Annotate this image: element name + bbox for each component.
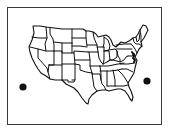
- us-states-map: [0, 0, 172, 136]
- right-dot: [143, 77, 150, 84]
- left-dot: [19, 83, 26, 90]
